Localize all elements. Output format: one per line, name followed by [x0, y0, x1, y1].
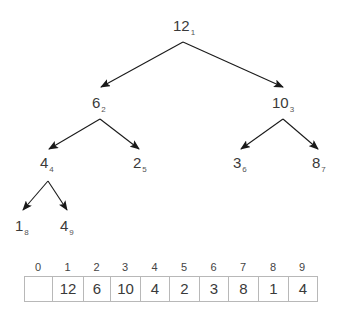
edge-4-8	[23, 181, 48, 210]
node-value: 3	[233, 154, 241, 171]
array-cell-3: 10	[111, 277, 141, 301]
array-cell-4: 4	[141, 277, 170, 301]
tree-node-6: 36	[233, 155, 247, 177]
node-value: 4	[40, 154, 48, 171]
array-index: 1	[52, 261, 83, 275]
node-index: 6	[242, 165, 246, 174]
edge-1-3	[183, 42, 283, 87]
node-value: 4	[60, 217, 68, 234]
node-value: 12	[173, 17, 190, 34]
node-value: 6	[92, 94, 100, 111]
tree-node-5: 25	[133, 155, 147, 177]
tree-node-7: 87	[312, 155, 326, 177]
array-index-row: 0 1 2 3 4 5 6 7 8 9	[24, 261, 316, 275]
node-value: 2	[133, 154, 141, 171]
node-index: 3	[290, 105, 294, 114]
array-cell-6: 3	[200, 277, 229, 301]
tree-node-3: 103	[272, 95, 294, 117]
edge-1-2	[101, 42, 183, 87]
edge-4-9	[48, 181, 67, 210]
node-index: 1	[191, 28, 195, 37]
tree-node-4: 44	[40, 155, 54, 177]
tree-node-2: 62	[92, 95, 106, 117]
array-cell-0	[25, 277, 53, 301]
array-index: 9	[288, 261, 316, 275]
node-value: 8	[312, 154, 320, 171]
array-cell-5: 2	[170, 277, 200, 301]
array-index: 3	[110, 261, 140, 275]
array-index: 6	[199, 261, 228, 275]
array-index: 7	[228, 261, 258, 275]
node-value: 1	[15, 217, 23, 234]
tree-node-9: 49	[60, 218, 74, 240]
array-cell-7: 8	[229, 277, 259, 301]
node-index: 7	[321, 165, 325, 174]
node-index: 2	[101, 105, 105, 114]
edge-2-5	[100, 119, 139, 149]
array-index: 4	[140, 261, 169, 275]
edge-3-6	[241, 119, 283, 149]
array-index: 2	[83, 261, 110, 275]
array-cell-2: 6	[84, 277, 111, 301]
array-cell-9: 4	[289, 277, 317, 301]
edge-2-4	[49, 119, 100, 149]
heap-array: 12 6 10 4 2 3 8 1 4	[24, 276, 318, 302]
tree-node-8: 18	[15, 218, 29, 240]
array-cell-1: 12	[53, 277, 84, 301]
node-index: 4	[49, 165, 53, 174]
node-index: 9	[69, 228, 73, 237]
array-cell-8: 1	[259, 277, 289, 301]
array-index: 8	[258, 261, 288, 275]
edge-3-7	[283, 119, 318, 149]
node-index: 5	[142, 165, 146, 174]
node-value: 10	[272, 94, 289, 111]
tree-node-1: 121	[173, 18, 195, 40]
array-index: 5	[169, 261, 199, 275]
node-index: 8	[24, 228, 28, 237]
array-index: 0	[24, 261, 52, 275]
